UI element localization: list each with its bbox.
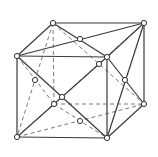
node-back-bottom-right xyxy=(141,101,146,106)
edge-front-top xyxy=(17,56,107,57)
node-top-face-center xyxy=(77,36,82,41)
cubic-lattice-diagram xyxy=(0,0,158,157)
node-left-face-center xyxy=(32,77,37,82)
edge-back-left xyxy=(53,23,54,104)
node-back-top-left xyxy=(50,20,55,25)
edge-front-bottom xyxy=(17,137,107,138)
node-front-face-center xyxy=(59,94,64,99)
node-front-top-left xyxy=(14,53,19,58)
node-back-top-right xyxy=(141,20,146,25)
node-front-bottom-right xyxy=(104,135,109,140)
node-back-bottom-left xyxy=(51,101,56,106)
node-back-face-center xyxy=(96,61,101,66)
node-bottom-face-center xyxy=(77,118,82,123)
node-right-face-center xyxy=(122,77,127,82)
node-front-bottom-left xyxy=(14,134,19,139)
node-front-top-right xyxy=(104,54,109,59)
